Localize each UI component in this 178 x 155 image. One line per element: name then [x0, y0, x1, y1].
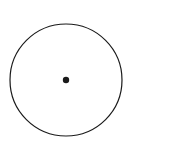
- center-point-marker: [63, 77, 69, 83]
- figure-container: ⁄ ⁄ ⁄ ⁄: [0, 0, 178, 155]
- brace-label-slash: ⁄: [0, 0, 4, 2]
- ninths-circle-diagram: ⁄ ⁄ ⁄ ⁄: [0, 0, 178, 155]
- brace-label-one-third: ⁄: [0, 0, 4, 2]
